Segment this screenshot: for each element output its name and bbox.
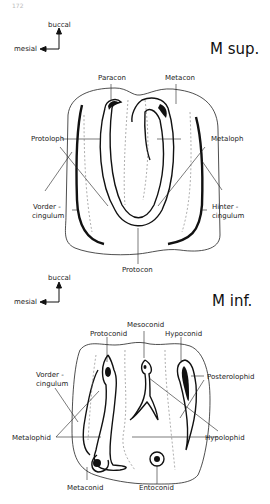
upper-lophs (100, 98, 173, 226)
label-hypoconid: Hypoconid (165, 330, 202, 338)
lower-molar-title: M inf. (212, 292, 252, 310)
upper-buccal-label: buccal (48, 21, 71, 29)
lower-mesial-label: mesial (14, 298, 37, 306)
lower-molar-outline (72, 342, 210, 484)
upper-orientation-arrows (40, 28, 62, 52)
label-entoconid: Entoconid (139, 484, 174, 492)
label-vordercingulum-upper-2: cingulum (32, 212, 64, 220)
label-vordercingulum-upper-1: Vorder - (33, 203, 61, 211)
label-metaconid: Metaconid (67, 484, 103, 492)
label-hintercingulum-1: Hinter - (212, 203, 238, 211)
label-hypolophid: Hypolophid (205, 434, 245, 442)
label-mesoconid: Mesoconid (127, 321, 164, 329)
upper-mesial-label: mesial (14, 45, 37, 53)
lower-lophids (83, 355, 196, 472)
label-protocon: Protocon (122, 266, 153, 274)
upper-molar-outline (65, 88, 220, 255)
label-hintercingulum-2: cingulum (212, 212, 244, 220)
label-vordercingulum-lower-2: cingulum (36, 380, 68, 388)
label-protoloph: Protoloph (31, 135, 64, 143)
label-paracon: Paracon (98, 74, 126, 82)
label-metalophid: Metalophid (12, 434, 51, 442)
label-vordercingulum-lower-1: Vorder - (36, 371, 64, 379)
lower-cusp-fills (93, 365, 189, 467)
upper-dashed-lines (84, 100, 191, 232)
lower-buccal-label: buccal (48, 274, 71, 282)
label-posterolophid: Posterolophid (207, 373, 254, 381)
lower-orientation-arrows (40, 282, 62, 305)
label-metacon: Metacon (165, 74, 195, 82)
lower-dashed-lines (88, 350, 175, 470)
upper-molar-title: M sup. (210, 40, 259, 58)
lower-leader-lines (55, 331, 218, 484)
molar-diagrams (0, 0, 270, 504)
label-protoconid: Protoconid (90, 330, 127, 338)
label-metaloph: Metaloph (211, 135, 244, 143)
